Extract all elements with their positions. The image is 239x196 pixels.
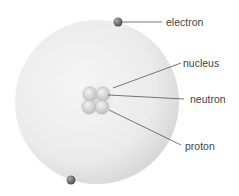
proton-particle — [95, 100, 109, 114]
nucleus-halo — [76, 80, 116, 120]
neutron-label: neutron — [190, 94, 226, 105]
nucleon-particle — [83, 87, 97, 101]
electron-particle — [114, 18, 123, 27]
nucleon-particle — [82, 100, 96, 114]
nucleus-label: nucleus — [183, 58, 219, 69]
neutron-particle — [96, 87, 110, 101]
proton-label: proton — [185, 141, 215, 152]
electron-label: electron — [166, 17, 203, 28]
electron-particle — [67, 176, 76, 185]
